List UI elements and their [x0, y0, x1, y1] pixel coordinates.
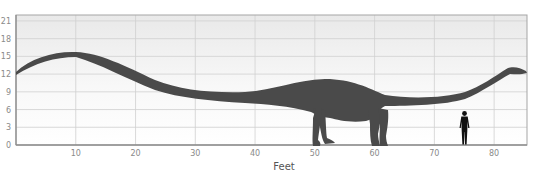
y-tick-label: 18 [1, 35, 11, 44]
y-tick-label: 21 [1, 17, 11, 26]
x-tick-label: 80 [489, 149, 499, 158]
y-tick-label: 0 [6, 141, 11, 150]
x-axis-label: Feet [273, 161, 295, 172]
x-tick-label: 20 [130, 149, 140, 158]
y-tick-label: 6 [6, 106, 11, 115]
x-tick-label: 60 [370, 149, 380, 158]
x-tick-labels: 1020304050607080 [71, 149, 500, 158]
size-comparison-chart: 1020304050607080 036912151821 Feet [0, 0, 533, 174]
x-tick-label: 40 [250, 149, 260, 158]
plot-area [16, 15, 527, 145]
x-tick-label: 10 [71, 149, 81, 158]
y-tick-label: 12 [1, 70, 11, 79]
x-tick-label: 50 [310, 149, 320, 158]
y-tick-label: 9 [6, 88, 11, 97]
y-tick-label: 15 [1, 52, 11, 61]
x-tick-label: 30 [190, 149, 200, 158]
y-tick-label: 3 [6, 123, 11, 132]
x-tick-label: 70 [429, 149, 439, 158]
y-tick-labels: 036912151821 [1, 17, 11, 150]
